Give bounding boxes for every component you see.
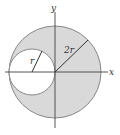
- y-axis-label: y: [50, 3, 57, 13]
- large-radius-label: 2r: [63, 45, 75, 55]
- x-axis-label: x: [109, 67, 114, 77]
- circle-diagram: y x 2r r: [0, 0, 120, 135]
- small-radius-label: r: [30, 56, 35, 66]
